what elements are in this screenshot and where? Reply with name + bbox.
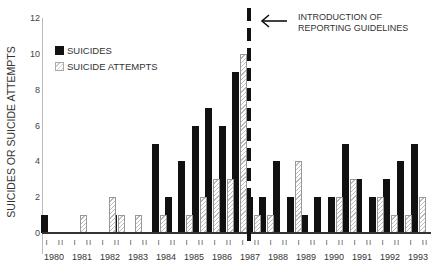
legend-label-attempts: SUICIDE ATTEMPTS <box>67 61 158 72</box>
bar-attempts <box>391 215 398 233</box>
year-label: 1990 <box>324 252 344 262</box>
bar-attempts <box>80 215 87 233</box>
bar-suicides <box>301 215 308 233</box>
bar-suicides <box>41 215 48 233</box>
legend: SUICIDES SUICIDE ATTEMPTS <box>55 42 158 74</box>
half-year-tick: I <box>241 238 244 247</box>
half-year-tick: I <box>353 238 356 247</box>
year-label: 1980 <box>44 252 64 262</box>
annotation-line-2: REPORTING GUIDELINES <box>298 23 408 34</box>
bar-attempts <box>350 179 357 233</box>
legend-swatch-hatched-icon <box>55 62 64 71</box>
half-year-tick: I <box>101 238 104 247</box>
bar-attempts <box>186 215 193 233</box>
bar-attempts <box>160 215 167 233</box>
bar-attempts <box>109 197 116 233</box>
bar-suicides <box>287 197 294 233</box>
annotation-line-1: INTRODUCTION OF <box>298 12 408 23</box>
bar-suicides <box>369 197 376 233</box>
year-label: 1981 <box>72 252 92 262</box>
half-year-tick: II <box>394 238 400 247</box>
bar-attempts <box>405 215 412 233</box>
half-year-tick: II <box>254 238 260 247</box>
year-label: 1989 <box>296 252 316 262</box>
half-year-tick: I <box>185 238 188 247</box>
bar-attempts <box>227 179 234 233</box>
year-label: 1986 <box>212 252 232 262</box>
half-year-tick: II <box>86 238 92 247</box>
bar-attempts <box>295 161 302 233</box>
bar-attempts <box>135 215 142 233</box>
half-year-tick: II <box>310 238 316 247</box>
half-year-tick: II <box>338 238 344 247</box>
bar-suicides <box>342 144 349 234</box>
year-label: 1982 <box>100 252 120 262</box>
legend-label-suicides: SUICIDES <box>67 45 112 56</box>
bar-suicides <box>178 161 185 233</box>
half-year-tick: II <box>282 238 288 247</box>
bar-suicides <box>397 161 404 233</box>
bar-suicides <box>411 144 418 234</box>
year-label: 1985 <box>184 252 204 262</box>
half-year-tick: II <box>422 238 428 247</box>
bar-suicides <box>219 126 226 233</box>
left-arrow-icon <box>260 14 288 28</box>
half-year-tick: I <box>269 238 272 247</box>
year-label: 1988 <box>268 252 288 262</box>
half-year-tick: I <box>213 238 216 247</box>
bar-attempts <box>213 179 220 233</box>
half-year-tick: II <box>142 238 148 247</box>
guidelines-divider-line <box>247 8 251 248</box>
year-label: 1983 <box>128 252 148 262</box>
year-label: 1993 <box>408 252 428 262</box>
bar-attempts <box>240 54 247 233</box>
half-year-tick: II <box>114 238 120 247</box>
bar-attempts <box>267 215 274 233</box>
half-year-tick: I <box>325 238 328 247</box>
half-year-tick: I <box>129 238 132 247</box>
half-year-tick: II <box>226 238 232 247</box>
legend-item-suicides: SUICIDES <box>55 42 158 58</box>
half-year-tick: II <box>58 238 64 247</box>
bar-attempts <box>254 215 261 233</box>
year-label: 1984 <box>156 252 176 262</box>
year-label: 1991 <box>352 252 372 262</box>
bar-suicides <box>152 144 159 234</box>
x-axis-line <box>42 232 431 234</box>
bar-suicides <box>328 197 335 233</box>
half-year-tick: I <box>45 238 48 247</box>
bar-attempts <box>336 197 343 233</box>
half-year-tick: II <box>198 238 204 247</box>
bar-suicides <box>192 126 199 233</box>
half-year-tick: I <box>297 238 300 247</box>
annotation: INTRODUCTION OF REPORTING GUIDELINES <box>260 12 408 34</box>
bar-suicides <box>273 161 280 233</box>
legend-item-attempts: SUICIDE ATTEMPTS <box>55 58 158 74</box>
half-year-tick: I <box>409 238 412 247</box>
year-label: 1987 <box>240 252 260 262</box>
bar-suicides <box>383 179 390 233</box>
bar-attempts <box>377 197 384 233</box>
bar-attempts <box>118 215 125 233</box>
bar-suicides <box>314 197 321 233</box>
bar-attempts <box>200 197 207 233</box>
bar-attempts <box>419 197 426 233</box>
half-year-tick: I <box>157 238 160 247</box>
plot-area <box>0 0 433 233</box>
annotation-text: INTRODUCTION OF REPORTING GUIDELINES <box>298 12 408 34</box>
half-year-tick: II <box>366 238 372 247</box>
legend-swatch-solid-icon <box>55 46 64 55</box>
half-year-tick: II <box>170 238 176 247</box>
year-label: 1992 <box>380 252 400 262</box>
half-year-tick: I <box>73 238 76 247</box>
half-year-tick: I <box>381 238 384 247</box>
